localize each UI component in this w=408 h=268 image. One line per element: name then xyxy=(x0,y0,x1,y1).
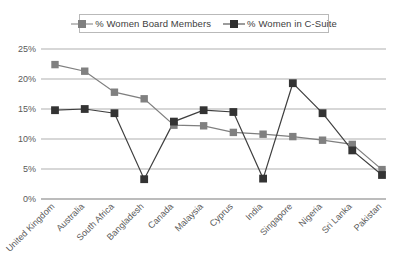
data-point-marker xyxy=(378,171,386,179)
y-axis-tick-label: 20% xyxy=(18,74,36,84)
x-axis-tick-label: Canada xyxy=(146,201,175,230)
x-axis-tick-label: India xyxy=(244,201,265,222)
y-axis-tick-label: 25% xyxy=(18,44,36,54)
data-point-marker xyxy=(51,106,59,114)
data-point-marker xyxy=(140,175,148,183)
x-axis-tick-label: United Kingdom xyxy=(4,201,56,253)
data-point-marker xyxy=(289,133,296,140)
x-axis-tick-label: Singapore xyxy=(258,201,294,237)
y-axis-tick-label: 0% xyxy=(23,194,36,204)
data-point-marker xyxy=(229,108,237,116)
data-point-marker xyxy=(319,137,326,144)
x-axis-tick-label: Cyprus xyxy=(208,201,236,229)
y-axis-tick-label: 5% xyxy=(23,164,36,174)
series-line-board-members xyxy=(55,65,382,170)
data-point-marker xyxy=(140,95,147,102)
gridlines xyxy=(41,49,386,199)
data-point-marker xyxy=(111,89,118,96)
data-point-marker xyxy=(111,109,119,117)
data-point-marker xyxy=(289,79,297,87)
x-axis-tick-labels: United KingdomAustraliaSouth AfricaBangl… xyxy=(4,201,383,254)
data-point-marker xyxy=(170,118,178,126)
data-point-marker xyxy=(259,175,267,183)
data-point-marker xyxy=(259,131,266,138)
line-chart-plot: 0%5%10%15%20%25% United KingdomAustralia… xyxy=(0,0,408,268)
data-point-marker xyxy=(81,68,88,75)
data-point-marker xyxy=(200,106,208,114)
data-point-marker xyxy=(51,61,58,68)
x-axis-tick-label: Pakistan xyxy=(352,201,383,232)
series-line-c-suite xyxy=(55,83,382,179)
y-axis-tick-labels: 0%5%10%15%20%25% xyxy=(18,44,36,204)
y-axis-tick-label: 10% xyxy=(18,134,36,144)
series-lines xyxy=(55,65,382,180)
x-axis-tick-label: Nigeria xyxy=(297,201,324,228)
x-axis-tick-label: Sri Lanka xyxy=(320,201,354,235)
data-point-marker xyxy=(348,147,356,155)
data-point-marker xyxy=(319,109,327,117)
x-axis-tick-label: Malaysia xyxy=(173,201,205,233)
data-point-marker xyxy=(81,105,89,113)
data-point-marker xyxy=(230,129,237,136)
chart-container: % Women Board Members % Women in C-Suite… xyxy=(0,0,408,268)
y-axis-tick-label: 15% xyxy=(18,104,36,114)
data-point-marker xyxy=(200,122,207,129)
